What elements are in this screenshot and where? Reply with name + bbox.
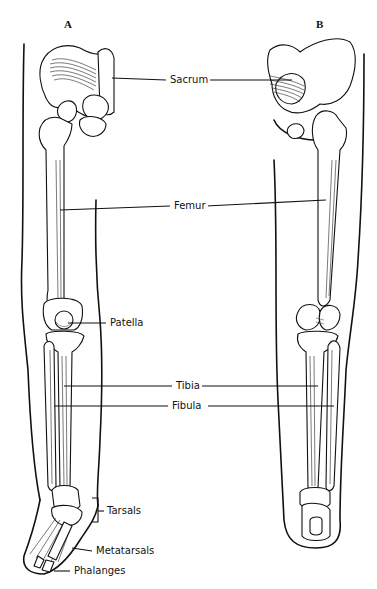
panel-label-b: B	[316, 18, 323, 30]
leg-skeleton-figure: A B Sacrum Femur Patella Tibia Fibula Ta…	[0, 0, 377, 589]
leg-bones-illustration	[0, 0, 377, 589]
label-femur: Femur	[172, 200, 208, 212]
label-metatarsals: Metatarsals	[94, 545, 156, 557]
label-tarsals: Tarsals	[105, 505, 143, 517]
label-fibula: Fibula	[170, 400, 203, 412]
label-phalanges: Phalanges	[72, 565, 127, 577]
panel-b-drawing	[268, 39, 364, 548]
label-sacrum: Sacrum	[168, 74, 210, 86]
label-patella: Patella	[108, 317, 145, 329]
leader-lines	[54, 78, 334, 571]
panel-a-drawing	[21, 44, 114, 574]
label-tibia: Tibia	[174, 380, 202, 392]
panel-label-a: A	[64, 18, 72, 30]
